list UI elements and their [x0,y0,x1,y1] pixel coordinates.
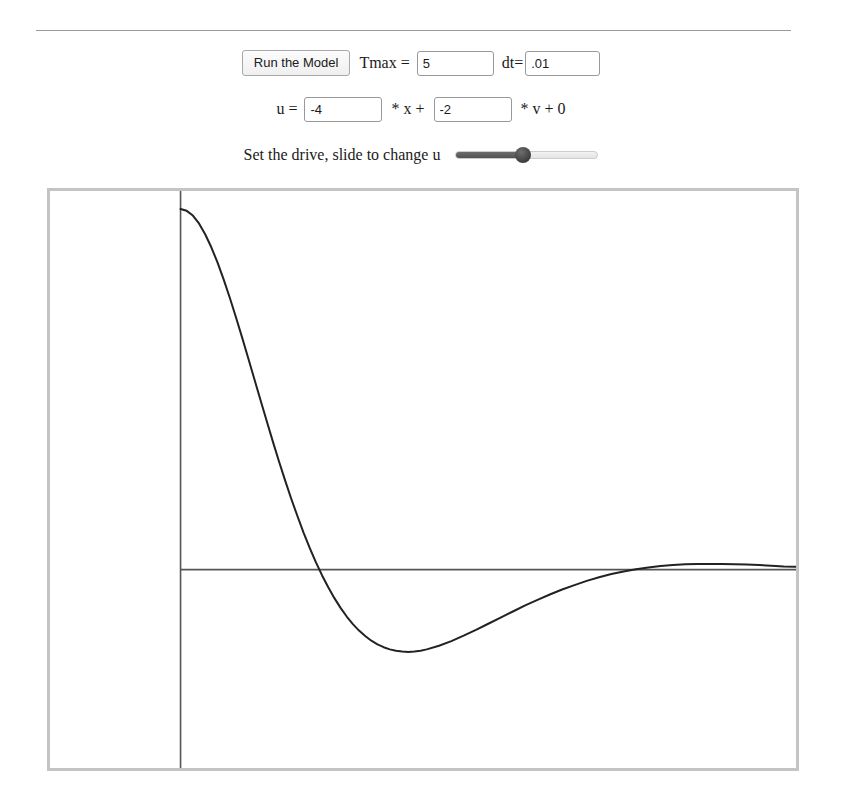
drive-label: Set the drive, slide to change u [244,146,441,164]
run-the-model-button[interactable]: Run the Model [242,50,351,76]
tmax-input[interactable] [417,51,494,76]
gain-v-input[interactable] [434,97,512,122]
equation-u-label: u = [276,100,297,118]
tmax-label: Tmax = [359,54,409,72]
drive-slider-thumb[interactable] [515,147,531,163]
equation-row: u = * x + * v + 0 [0,96,842,122]
dt-input[interactable] [525,51,600,76]
gain-x-input[interactable] [304,97,382,122]
horizontal-rule [36,30,791,31]
equation-times-x-label: * x + [391,100,424,118]
response-plot [50,191,796,768]
response-curve [181,209,796,652]
drive-slider[interactable] [455,145,598,165]
drive-row: Set the drive, slide to change u [0,142,842,168]
drive-slider-fill [456,152,522,158]
run-controls-row: Run the Model Tmax = dt= [0,50,842,76]
equation-tail-label: * v + 0 [521,100,566,118]
dt-label: dt= [502,54,523,72]
plot-area [47,188,799,771]
